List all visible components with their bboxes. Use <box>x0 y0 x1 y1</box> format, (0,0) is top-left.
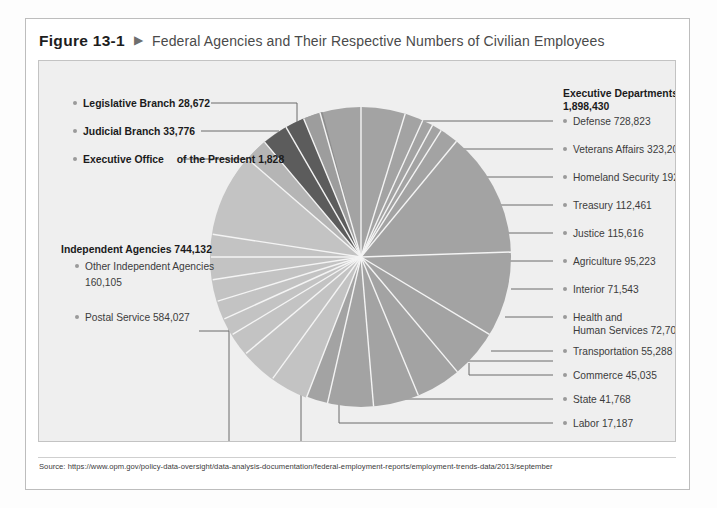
bullet-icon <box>73 101 77 105</box>
group-heading-executive-departments-line1: Executive Departments <box>563 88 676 99</box>
bullet-icon <box>563 147 567 151</box>
group-heading-independent-agencies: Independent Agencies 744,132 <box>61 243 212 256</box>
bullet-icon <box>563 287 567 291</box>
bullet-icon <box>563 203 567 207</box>
label-state: State 41,768 <box>563 393 631 406</box>
label-interior: Interior 71,543 <box>563 283 639 296</box>
label-justice: Justice 115,616 <box>563 227 644 240</box>
label-treasury: Treasury 112,461 <box>563 199 652 212</box>
chart-canvas: Legislative Branch 28,672 Judicial Branc… <box>39 61 675 441</box>
bullet-icon <box>563 231 567 235</box>
bullet-icon <box>563 259 567 263</box>
label-executive-office-line1: Executive Office <box>83 154 164 165</box>
label-defense-text: Defense 728,823 <box>573 116 651 127</box>
bullet-icon <box>73 157 77 161</box>
bullet-icon <box>563 373 567 377</box>
label-postal-service-text: Postal Service 584,027 <box>85 312 190 323</box>
label-justice-text: Justice 115,616 <box>573 228 644 239</box>
bullet-icon <box>563 397 567 401</box>
label-homeland-security-text: Homeland Security 192,073 <box>573 172 676 183</box>
label-executive-office: Executive Office of the President 1,828 <box>73 153 284 166</box>
label-judicial-branch-text: Judicial Branch 33,776 <box>83 126 195 137</box>
chart-panel: Legislative Branch 28,672 Judicial Branc… <box>38 60 676 442</box>
label-homeland-security: Homeland Security 192,073 <box>563 171 676 184</box>
label-health-human-services-line1: Health and <box>573 312 622 323</box>
figure-number: Figure 13-1 <box>39 32 125 50</box>
label-defense: Defense 728,823 <box>563 115 651 128</box>
label-legislative-branch: Legislative Branch 28,672 <box>73 97 210 110</box>
page-background: Figure 13-1 ▶ Federal Agencies and Their… <box>0 0 717 508</box>
source-line: Source: https://www.opm.gov/policy-data-… <box>38 457 676 477</box>
label-health-human-services: Health and Human Services 72,703 <box>563 311 676 337</box>
triangle-right-icon: ▶ <box>134 34 143 46</box>
label-labor: Labor 17,187 <box>563 417 633 430</box>
label-judicial-branch: Judicial Branch 33,776 <box>73 125 195 138</box>
source-divider <box>38 457 676 458</box>
label-interior-text: Interior 71,543 <box>573 284 639 295</box>
group-heading-executive-departments: Executive Departments 1,898,430 <box>563 87 676 113</box>
source-text: Source: https://www.opm.gov/policy-data-… <box>39 462 553 471</box>
leader-commerce <box>469 363 553 375</box>
label-health-human-services-line2: Human Services 72,703 <box>573 324 676 337</box>
label-agriculture: Agriculture 95,223 <box>563 255 656 268</box>
label-postal-service: Postal Service 584,027 <box>75 311 190 324</box>
label-commerce-text: Commerce 45,035 <box>573 370 657 381</box>
label-transportation-text: Transportation 55,288 <box>573 346 672 357</box>
figure-heading: Federal Agencies and Their Respective Nu… <box>152 33 605 49</box>
pie-slices-group <box>210 107 511 407</box>
label-veterans-affairs-text: Veterans Affairs 323,208 <box>573 144 676 155</box>
label-legislative-branch-text: Legislative Branch 28,672 <box>83 98 210 109</box>
bullet-icon <box>563 315 567 319</box>
bullet-icon <box>73 129 77 133</box>
label-agriculture-text: Agriculture 95,223 <box>573 256 656 267</box>
label-labor-text: Labor 17,187 <box>573 418 633 429</box>
group-heading-executive-departments-line2: 1,898,430 <box>563 100 676 113</box>
bullet-icon <box>563 349 567 353</box>
label-other-independent-agencies: Other Independent Agencies 160,105 <box>75 260 214 289</box>
figure-title-bar: Figure 13-1 ▶ Federal Agencies and Their… <box>39 29 605 53</box>
label-treasury-text: Treasury 112,461 <box>573 200 652 211</box>
bullet-icon <box>75 315 79 319</box>
label-executive-office-line2: of the President 1,828 <box>177 154 284 165</box>
label-other-independent-agencies-line2: 160,105 <box>85 276 214 289</box>
bullet-icon <box>563 119 567 123</box>
label-transportation: Transportation 55,288 <box>563 345 672 358</box>
label-veterans-affairs: Veterans Affairs 323,208 <box>563 143 676 156</box>
figure-frame: Figure 13-1 ▶ Federal Agencies and Their… <box>25 18 690 490</box>
label-state-text: State 41,768 <box>573 394 631 405</box>
label-energy: Energy 15,213 <box>563 441 639 442</box>
label-other-independent-agencies-line1: Other Independent Agencies <box>85 261 214 272</box>
bullet-icon <box>563 421 567 425</box>
bullet-icon <box>75 264 79 268</box>
bullet-icon <box>563 175 567 179</box>
label-commerce: Commerce 45,035 <box>563 369 657 382</box>
